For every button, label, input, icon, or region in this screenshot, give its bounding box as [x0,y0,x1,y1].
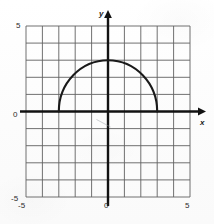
x-axis-tick-label-left: -5 [18,202,25,210]
graph-figure: 5 0 -5 -5 0 5 y x [0,0,214,224]
x-axis-arrow-icon [198,108,206,116]
coordinate-plot [0,0,214,224]
y-axis [104,10,112,206]
y-axis-name-label: y [99,10,103,18]
x-axis-tick-label-zero: 0 [104,202,108,210]
x-axis-name-label: x [200,119,204,127]
x-axis [20,108,206,116]
y-axis-tick-label-top: 5 [16,22,20,30]
x-axis-tick-label-right: 5 [185,202,189,210]
y-axis-tick-label-zero: 0 [13,111,17,119]
y-axis-arrow-icon [104,10,112,18]
